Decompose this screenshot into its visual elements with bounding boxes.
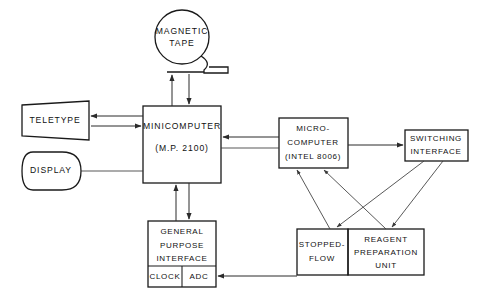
node-minicomputer[interactable]: MINICOMPUTER (M.P. 2100): [143, 106, 221, 183]
gpi-label-line3: INTERFACE: [156, 254, 207, 263]
magnetic-tape-circle: [155, 10, 209, 64]
connector-stopped-flow-to-microcomputer: [297, 170, 330, 229]
reagent-prep-label-line1: REAGENT: [364, 235, 408, 244]
node-magnetic-tape[interactable]: MAGNETIC TAPE: [155, 10, 228, 73]
node-switching-interface[interactable]: SWITCHING INTERFACE: [405, 130, 468, 161]
microcomputer-label-line1: MICRO-: [296, 124, 330, 133]
gpi-label-line2: PURPOSE: [160, 241, 204, 250]
node-general-purpose-interface[interactable]: GENERAL PURPOSE INTERFACE CLOCK ADC: [148, 221, 216, 287]
microcomputer-label-line3: (INTEL 8006): [285, 152, 341, 161]
system-block-diagram: MAGNETIC TAPE TELETYPE DISPLAY MINICOMPU…: [0, 0, 490, 302]
gpi-clock-label: CLOCK: [149, 272, 180, 281]
switching-interface-label-line2: INTERFACE: [410, 147, 461, 156]
teletype-label: TELETYPE: [29, 115, 80, 125]
connector-switching-interface-to-reagent-prep: [392, 161, 443, 227]
switching-interface-label-line1: SWITCHING: [410, 134, 462, 143]
node-display[interactable]: DISPLAY: [22, 152, 81, 190]
connector-switching-interface-to-stopped-flow: [337, 161, 424, 227]
node-stopped-flow[interactable]: STOPPED- FLOW: [297, 229, 348, 275]
stopped-flow-label-line2: FLOW: [309, 254, 335, 263]
gpi-adc-label: ADC: [190, 272, 209, 281]
node-teletype[interactable]: TELETYPE: [22, 101, 89, 140]
minicomputer-label-line1: MINICOMPUTER: [143, 121, 221, 131]
magnetic-tape-label-line1: MAGNETIC: [156, 26, 209, 36]
gpi-label-line1: GENERAL: [160, 227, 203, 236]
display-label: DISPLAY: [30, 165, 72, 175]
reagent-prep-label-line3: UNIT: [375, 261, 396, 270]
minicomputer-label-line2: (M.P. 2100): [155, 143, 209, 153]
magnetic-tape-label-line2: TAPE: [169, 38, 194, 48]
stopped-flow-label-line1: STOPPED-: [299, 240, 345, 249]
node-microcomputer[interactable]: MICRO- COMPUTER (INTEL 8006): [279, 118, 348, 168]
magnetic-tape-reel-tail: [201, 56, 228, 73]
node-reagent-preparation-unit[interactable]: REAGENT PREPARATION UNIT: [348, 229, 424, 275]
microcomputer-label-line2: COMPUTER: [287, 138, 338, 147]
connector-reagent-prep-to-microcomputer: [324, 170, 386, 229]
stopped-flow-box: [297, 229, 348, 275]
reagent-prep-label-line2: PREPARATION: [354, 248, 418, 257]
